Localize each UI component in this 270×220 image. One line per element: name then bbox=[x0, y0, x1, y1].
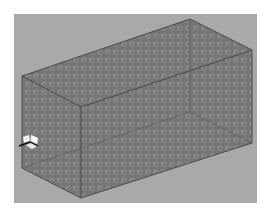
3d-viewport[interactable] bbox=[14, 14, 257, 203]
box-solid[interactable] bbox=[22, 19, 252, 198]
screenshot-canvas bbox=[0, 0, 270, 220]
scene-svg bbox=[14, 14, 257, 203]
